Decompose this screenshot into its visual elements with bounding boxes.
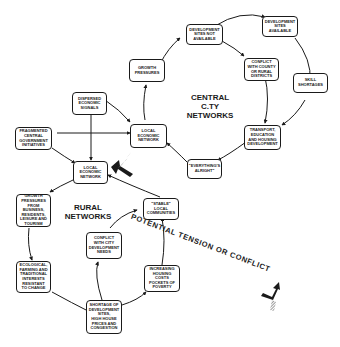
arrow-local-central-to-growth bbox=[144, 85, 146, 120]
arrow-everything-to-local-central bbox=[167, 143, 187, 162]
node-dispersed-economic-signals[interactable]: DISPERSED ECONOMIC SIGNALS bbox=[72, 92, 107, 115]
node-fragmented-government-initiatives[interactable]: FRAGMENTED CENTRAL GOVERNMENT INITIATIVE… bbox=[15, 127, 52, 150]
arrow-shortage-to-increasing bbox=[122, 292, 146, 305]
arrow-conflict-county-to-transport bbox=[265, 77, 268, 123]
node-ecological-farming-interests[interactable]: ECOLOGICAL, FARMING AND TRADITIONAL INTE… bbox=[16, 261, 51, 293]
node-local-economic-network-central[interactable]: LOCAL ECONOMIC NETWORK bbox=[130, 124, 167, 148]
rural-networks-label: RURAL NETWORKS bbox=[60, 203, 116, 221]
network-diagram: CENTRAL C.TY NETWORKS RURAL NETWORKS POT… bbox=[0, 0, 340, 347]
node-conflict-with-county[interactable]: CONFLICT WITH COUNTY OR RURAL DISTRICTS bbox=[244, 58, 279, 81]
arrow-fragmented-to-local-rural bbox=[52, 148, 75, 163]
node-everythings-alright[interactable]: "EVERYTHING'S ALRIGHT" bbox=[187, 159, 222, 179]
node-growth-pressures-rural[interactable]: GROWTH PRESSURES FROM BUSINESS, RESIDENT… bbox=[16, 194, 51, 227]
tension-arrow-left bbox=[111, 152, 133, 177]
arrow-devsites-not-to-devsites bbox=[215, 15, 265, 26]
tension-arrow-right bbox=[261, 282, 280, 311]
node-local-economic-network-rural[interactable]: LOCAL ECONOMIC NETWORK bbox=[73, 161, 108, 184]
node-shortage-of-development-sites[interactable]: SHORTAGE OF DEVELOPMENT SITES, HIGH HOUS… bbox=[86, 300, 122, 334]
arrow-shortage-to-conflict-city bbox=[97, 262, 102, 300]
node-growth-pressures[interactable]: GROWTH PRESSURES bbox=[129, 59, 165, 82]
central-city-networks-label: CENTRAL C.TY NETWORKS bbox=[180, 93, 240, 120]
arrow-transport-to-everything bbox=[218, 142, 246, 160]
arrow-stable-to-local-rural bbox=[108, 175, 160, 197]
node-increasing-housing-costs[interactable]: INCREASING HOUSING COSTS POCKETS OF POVE… bbox=[144, 265, 180, 292]
arrow-ecological-to-shortage bbox=[52, 292, 90, 312]
node-transport-education-housing[interactable]: TRANSPORT, EDUCATION AND HOUSING DEVELOP… bbox=[244, 125, 281, 150]
node-development-sites-not-available[interactable]: DEVELOPMENT SITES NOT AVAILABLE bbox=[186, 24, 223, 45]
arrow-local-rural-to-growth-rural bbox=[50, 180, 73, 192]
arrow-dispersed-to-local-central bbox=[105, 100, 130, 122]
arrow-devsites-not-to-conflict-county bbox=[222, 41, 244, 56]
connector-layer bbox=[0, 0, 340, 347]
node-stable-local-communities[interactable]: "STABLE" LOCAL COMMUNITIES bbox=[143, 198, 179, 220]
arrow-growth-rural-to-ecological bbox=[28, 228, 32, 260]
node-conflict-with-city-needs[interactable]: CONFLICT WITH CITY DEVELOPMENT NEEDS bbox=[86, 232, 122, 259]
arrow-skill-to-transport bbox=[282, 100, 305, 125]
node-development-sites-available[interactable]: DEVELOPMENT SITES AVAILABLE bbox=[262, 16, 298, 37]
node-skill-shortages[interactable]: SKILL SHORTAGES bbox=[293, 73, 328, 93]
